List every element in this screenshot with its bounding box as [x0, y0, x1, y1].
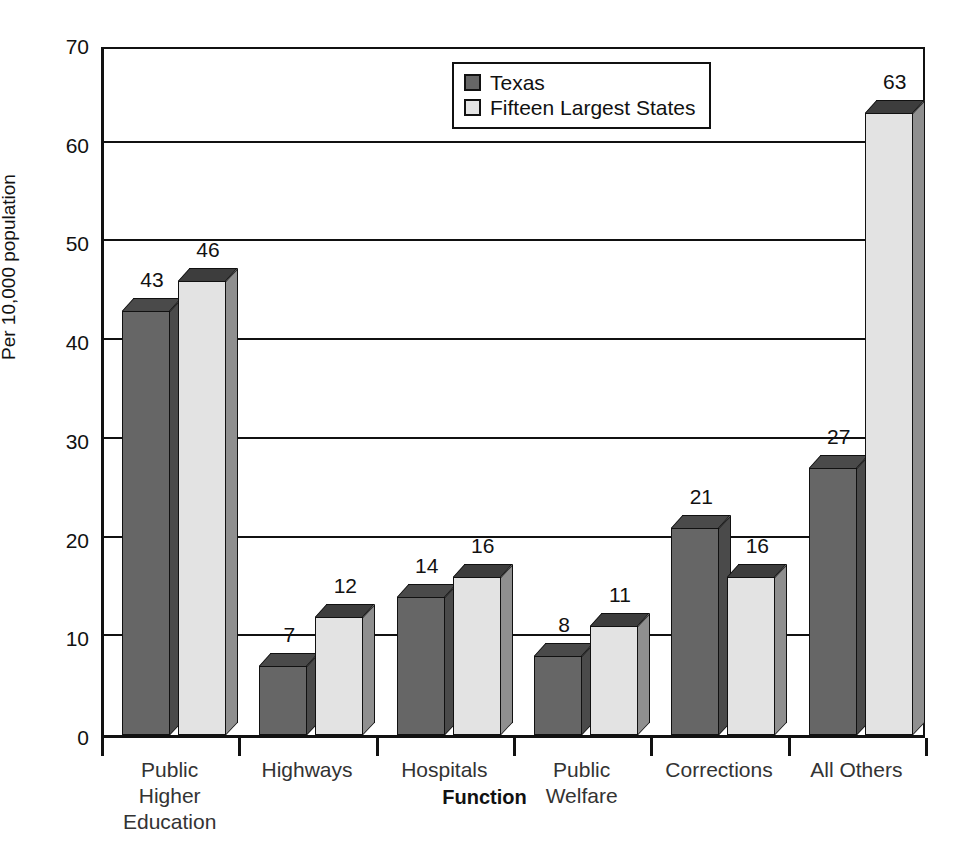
- bar-value-label: 8: [529, 614, 599, 635]
- x-category-label: Corrections: [650, 757, 787, 783]
- x-tick-mark: [788, 738, 791, 756]
- x-tick-mark: [925, 738, 928, 756]
- x-axis-title: Function: [0, 786, 969, 809]
- bar-front-face: [671, 528, 719, 735]
- bar: [397, 597, 445, 735]
- bar-front-face: [534, 656, 582, 735]
- bar-value-label: 12: [310, 575, 380, 596]
- legend-item: Fifteen Largest States: [464, 95, 695, 120]
- bar: [727, 577, 775, 735]
- plot-area: 4346712141681121162763: [101, 47, 925, 738]
- bar: [315, 617, 363, 735]
- bar-side-face: [226, 268, 238, 735]
- bar-value-label: 11: [585, 584, 655, 605]
- bar-chart: Per 10,000 population 434671214168112116…: [0, 0, 969, 852]
- bar-value-label: 16: [448, 535, 518, 556]
- bar-value-label: 43: [117, 269, 187, 290]
- x-tick-mark: [101, 738, 104, 756]
- bar: [453, 577, 501, 735]
- bar-value-label: 63: [860, 71, 930, 92]
- bar-side-face: [638, 614, 650, 735]
- bar-value-label: 14: [392, 555, 462, 576]
- y-tick-label: 0: [43, 727, 89, 748]
- bar-front-face: [397, 597, 445, 735]
- bar-value-label: 27: [804, 426, 874, 447]
- bar: [178, 281, 226, 735]
- x-tick-mark: [513, 738, 516, 756]
- bar-side-face: [775, 564, 787, 735]
- y-tick-label: 30: [43, 431, 89, 452]
- y-axis-title: Per 10,000 population: [0, 100, 20, 360]
- y-tick-label: 70: [43, 36, 89, 57]
- bar-front-face: [315, 617, 363, 735]
- y-tick-label: 20: [43, 530, 89, 551]
- legend-swatch-icon: [464, 74, 481, 91]
- legend-label: Fifteen Largest States: [490, 97, 695, 118]
- bar-front-face: [865, 113, 913, 735]
- bar: [534, 656, 582, 735]
- legend-swatch-icon: [464, 99, 481, 116]
- gridline-60: [104, 141, 923, 143]
- bar-side-face: [501, 564, 513, 735]
- bar: [122, 311, 170, 735]
- bar-value-label: 21: [666, 486, 736, 507]
- chart-legend: TexasFifteen Largest States: [452, 62, 711, 129]
- bar: [671, 528, 719, 735]
- x-category-label: All Others: [788, 757, 925, 783]
- bar-value-label: 16: [722, 535, 792, 556]
- bar-value-label: 46: [173, 239, 243, 260]
- bar-front-face: [178, 281, 226, 735]
- y-tick-label: 60: [43, 135, 89, 156]
- legend-label: Texas: [490, 72, 545, 93]
- x-category-label: Hospitals: [376, 757, 513, 783]
- bar-front-face: [727, 577, 775, 735]
- y-tick-label: 10: [43, 628, 89, 649]
- bar: [259, 666, 307, 735]
- y-tick-label: 50: [43, 233, 89, 254]
- bar: [809, 468, 857, 735]
- bar: [865, 113, 913, 735]
- bar-front-face: [453, 577, 501, 735]
- bar-side-face: [913, 100, 925, 735]
- x-tick-mark: [650, 738, 653, 756]
- bar-value-label: 7: [254, 624, 324, 645]
- bar-front-face: [809, 468, 857, 735]
- x-category-label: Highways: [238, 757, 375, 783]
- bar-front-face: [122, 311, 170, 735]
- bar: [590, 626, 638, 735]
- bar-front-face: [590, 626, 638, 735]
- bar-front-face: [259, 666, 307, 735]
- y-tick-label: 40: [43, 332, 89, 353]
- bar-side-face: [363, 604, 375, 735]
- x-tick-mark: [238, 738, 241, 756]
- x-tick-mark: [376, 738, 379, 756]
- legend-item: Texas: [464, 70, 695, 95]
